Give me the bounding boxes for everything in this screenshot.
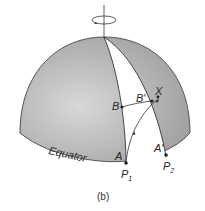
label-b: B (112, 100, 119, 112)
point-b (120, 105, 123, 108)
hemisphere-diagram: Equator A A′ B B′ X P1 P2 (b) (0, 0, 205, 211)
caption: (b) (97, 191, 109, 202)
label-a: A (114, 150, 122, 162)
hemisphere (20, 37, 190, 162)
label-a-prime: A′ (153, 142, 164, 154)
label-b-prime: B′ (136, 92, 146, 104)
label-x: X (154, 85, 163, 97)
point-p1 (124, 161, 128, 165)
label-p1: P1 (121, 168, 132, 182)
point-p2 (164, 153, 168, 157)
label-p2: P2 (163, 160, 174, 174)
point-b-prime (150, 99, 153, 102)
